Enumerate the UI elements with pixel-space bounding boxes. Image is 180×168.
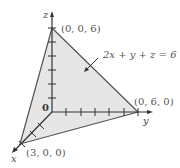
vertex-label-z: (0, 0, 6): [61, 23, 101, 34]
vertex-label-x: (3, 0, 0): [26, 147, 66, 158]
plane-diagram: z y x 0 (0, 0, 6) (0, 6, 0) (3, 0, 0) 2x…: [0, 0, 180, 168]
origin-label: 0: [42, 102, 49, 113]
y-axis-label: y: [142, 115, 149, 126]
x-axis-label: x: [11, 153, 17, 164]
z-axis-arrow-icon: [50, 11, 54, 17]
vertex-label-y: (0, 6, 0): [134, 96, 174, 107]
equation-label: 2x + y + z = 6: [102, 49, 177, 60]
z-axis-label: z: [42, 9, 49, 20]
y-axis-arrow-icon: [147, 110, 153, 114]
